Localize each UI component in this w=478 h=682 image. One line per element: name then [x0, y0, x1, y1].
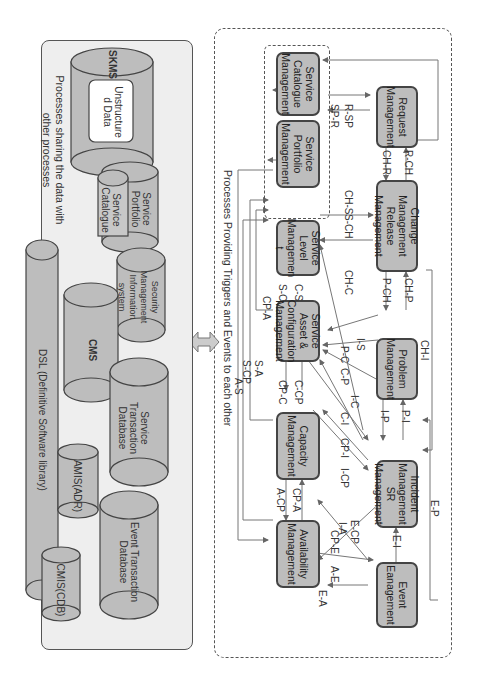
store-dsl: DSL (Definitive Software library) — [37, 300, 48, 540]
sharing-caption: Processes sharing the data with other pr… — [40, 60, 66, 240]
data-stores — [0, 0, 478, 682]
store-cms: CMS — [87, 320, 98, 380]
store-event-transaction-db: Event Transaction Database — [118, 520, 140, 604]
store-unstructured-data: Unstructure d Data — [102, 84, 124, 140]
store-cmis: CMIS(CDB) — [55, 562, 66, 618]
rotated-diagram: Event Eanagement Incident Management SR … — [0, 0, 478, 682]
sharing-caption-line1: Processes sharing the data with — [53, 60, 66, 240]
store-skms: SKMS — [107, 50, 118, 74]
store-service-catalogue: Service Catalogue — [100, 186, 122, 234]
store-amis: AMIS(ADR) — [72, 458, 83, 514]
store-smis: Security Management Information system — [116, 262, 160, 332]
sharing-caption-line2: other processes — [40, 60, 53, 240]
store-service-transaction-db: Service Transaction Database — [117, 388, 150, 468]
store-service-portfolio: Service Portfolio — [130, 184, 152, 234]
